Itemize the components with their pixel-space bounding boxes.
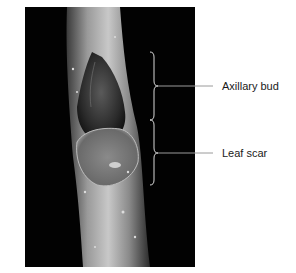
annotation-brackets [0,0,296,273]
leaf-scar-label: Leaf scar [222,147,267,159]
leaf-scar-brace [150,120,158,185]
axillary-bud-brace [150,52,158,120]
axillary-bud-label: Axillary bud [222,80,279,92]
